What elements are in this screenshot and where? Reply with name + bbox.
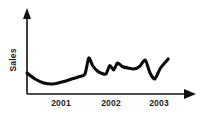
y-axis-title: Sales — [8, 48, 18, 71]
x-tick-label-2002: 2002 — [101, 98, 121, 108]
x-axis-arrow-icon — [184, 89, 196, 99]
sales-line-chart: Sales 2001 2002 2003 — [0, 0, 207, 117]
sales-series-line — [27, 58, 168, 84]
x-tick-label-2001: 2001 — [51, 98, 71, 108]
y-axis-arrow-icon — [23, 8, 31, 19]
chart-canvas: Sales 2001 2002 2003 — [0, 0, 207, 117]
x-tick-label-2003: 2003 — [149, 98, 169, 108]
